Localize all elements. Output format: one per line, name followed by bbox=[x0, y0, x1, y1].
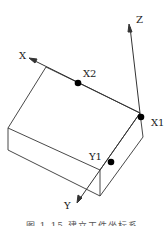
z-axis-label: Z bbox=[136, 15, 143, 25]
y-axis bbox=[77, 113, 140, 203]
x-axis-label: X bbox=[19, 51, 26, 61]
x-axis bbox=[29, 58, 140, 113]
y-axis-label: Y bbox=[64, 201, 71, 211]
z-axis bbox=[128, 24, 140, 113]
y1-label: Y1 bbox=[89, 152, 102, 162]
workpiece-block bbox=[8, 67, 143, 196]
x2-label: X2 bbox=[83, 69, 96, 79]
figure-caption: 图 1-15 建立工件坐标系 bbox=[26, 219, 138, 226]
coordinate-diagram bbox=[0, 0, 167, 226]
point-y1 bbox=[108, 159, 115, 166]
point-x1 bbox=[138, 114, 145, 121]
x1-label: X1 bbox=[151, 118, 164, 128]
point-x2 bbox=[75, 80, 82, 87]
